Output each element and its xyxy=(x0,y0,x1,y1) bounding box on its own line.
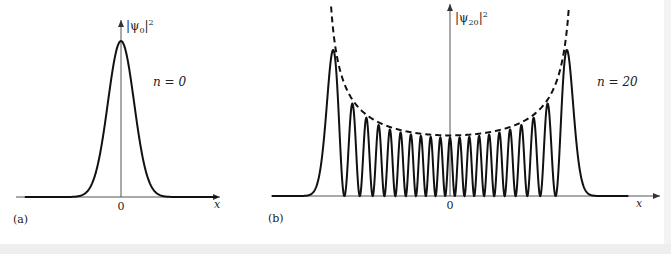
panel-a-annotation: n = 0 xyxy=(153,75,186,89)
panel-b-x-label: x xyxy=(636,197,643,210)
panel-b-x-tick-0: 0 xyxy=(447,199,454,212)
panel-a-label: (a) xyxy=(13,213,28,226)
figure: |ψ0|2 n = 0 0 x (a) |ψ20|2 n = 20 0 x (b… xyxy=(0,0,671,254)
panel-b: |ψ20|2 n = 20 0 x (b) xyxy=(268,4,660,225)
page-right-shadow xyxy=(664,0,671,244)
panel-a-x-label: x xyxy=(214,198,221,211)
panel-b-annotation: n = 20 xyxy=(597,75,638,89)
page-bottom-shadow xyxy=(0,244,671,254)
panel-a-x-tick-0: 0 xyxy=(118,200,125,213)
panel-a-y-label: |ψ0|2 xyxy=(126,18,154,35)
panel-b-label: (b) xyxy=(268,212,284,225)
panel-b-y-label: |ψ20|2 xyxy=(455,10,488,27)
panel-a: |ψ0|2 n = 0 0 x (a) xyxy=(13,18,221,226)
